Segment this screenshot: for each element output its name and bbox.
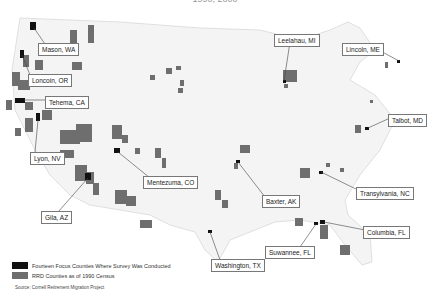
rrd-swatch-icon: [12, 272, 28, 279]
county-label-transylvania-nc: Transylvania, NC: [356, 187, 414, 200]
county-label-columbia-fl: Columbia, FL: [363, 226, 410, 239]
county-label-loncoin-or: Loncoin, OR: [28, 74, 72, 87]
legend-item-rrd: RRD Counties as of 1990 Census: [12, 272, 171, 279]
county-label-leelahau-mi: Leelahau, MI: [274, 34, 320, 47]
county-label-mentezuma-co: Mentezuma, CO: [143, 176, 198, 189]
map-legend: Fourteen Focus Counties Where Survey Was…: [12, 262, 171, 282]
county-label-mason-wa: Mason, WA: [38, 43, 79, 56]
county-label-baxter-ak: Baxter, AK: [262, 195, 300, 208]
county-label-gila-az: Gila, AZ: [41, 211, 72, 224]
source-note: Source: Cornell Retirement Migration Pro…: [15, 285, 104, 290]
county-label-suwannee-fl: Suwannee, FL: [265, 246, 315, 259]
county-label-lincoln-me: Lincoln, ME: [342, 43, 384, 56]
legend-label: RRD Counties as of 1990 Census: [32, 273, 115, 279]
county-label-lyon-nv: Lyon, NV: [30, 152, 65, 165]
county-label-talbot-md: Talbot, MD: [388, 114, 427, 127]
focus-swatch-icon: [12, 262, 28, 269]
legend-item-focus: Fourteen Focus Counties Where Survey Was…: [12, 262, 171, 269]
county-label-washington-tx: Washington, TX: [211, 259, 265, 272]
legend-label: Fourteen Focus Counties Where Survey Was…: [32, 263, 171, 269]
county-label-tehema-ca: Tehema, CA: [45, 96, 89, 109]
